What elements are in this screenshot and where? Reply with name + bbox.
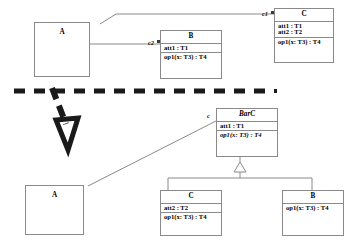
class-operations-c-after: op1(x: T3) : T4 — [161, 213, 221, 222]
generalization-triangle-icon — [234, 162, 246, 172]
class-box-b-after[interactable]: B op1(x: T3) : T4 — [282, 190, 344, 236]
class-name-b-before: B — [161, 31, 221, 44]
class-box-barc-after[interactable]: BarC att1 : T1 op1(x: T3) : T4 — [216, 108, 278, 157]
class-attributes-barc: att1 : T1 — [217, 122, 277, 132]
class-attributes-b-before: att1 : T1 — [161, 44, 221, 54]
class-attributes-c-before: att1 : T1 att2 : T2 — [275, 22, 333, 39]
class-operations-c-before: op1(x: T3) : T4 — [275, 38, 333, 47]
class-operation: op1(x: T3) : T4 — [164, 214, 218, 221]
class-box-c-before[interactable]: C att1 : T1 att2 : T2 op1(x: T3) : T4 — [274, 8, 334, 63]
class-operations-barc: op1(x: T3) : T4 — [217, 131, 277, 140]
class-operation: op1(x: T3) : T4 — [278, 39, 330, 46]
class-attribute: att2 : T2 — [164, 205, 218, 212]
class-name-c-before: C — [275, 9, 333, 22]
class-name-a-before: A — [35, 28, 89, 36]
class-box-a-after[interactable]: A — [25, 185, 84, 235]
class-attribute: att1 : T1 — [220, 123, 274, 130]
class-operations-b-before: op1(x: T3) : T4 — [161, 53, 221, 62]
class-operations-b-after: op1(x: T3) : T4 — [283, 204, 343, 213]
association-a-c-after — [88, 121, 216, 186]
class-box-a-before[interactable]: A — [34, 22, 90, 77]
association-label-c2: c2 — [148, 39, 154, 46]
class-name-a-after: A — [26, 191, 83, 199]
transformation-arrow-head — [56, 118, 78, 150]
class-name-c-after: C — [161, 191, 221, 204]
association-a-c1 — [100, 14, 274, 24]
association-label-c-after: c — [207, 112, 210, 119]
association-label-c1: c1 — [262, 10, 268, 17]
class-box-b-before[interactable]: B att1 : T1 op1(x: T3) : T4 — [160, 30, 222, 79]
uml-diagram-canvas: A c2 B att1 : T1 op1(x: T3) : T4 c1 C at… — [0, 0, 353, 249]
transformation-arrow-shaft — [52, 88, 66, 124]
class-operation: op1(x: T3) : T4 — [220, 132, 274, 139]
class-box-c-after[interactable]: C att2 : T2 op1(x: T3) : T4 — [160, 190, 222, 236]
class-operation: op1(x: T3) : T4 — [164, 54, 218, 61]
class-attributes-c-after: att2 : T2 — [161, 204, 221, 214]
class-attribute: att2 : T2 — [278, 29, 330, 36]
class-name-b-after: B — [283, 191, 343, 204]
class-name-barc: BarC — [217, 109, 277, 122]
class-attribute: att1 : T1 — [164, 45, 218, 52]
class-operation: op1(x: T3) : T4 — [286, 205, 340, 212]
